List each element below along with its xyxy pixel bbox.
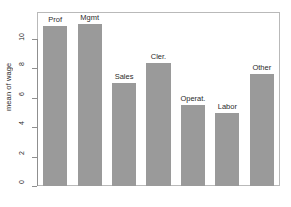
y-axis-tick — [32, 98, 37, 99]
bar-label: Operat. — [172, 95, 214, 103]
y-axis-line — [37, 39, 38, 186]
y-axis-tick — [32, 127, 37, 128]
bar — [112, 83, 136, 186]
bar — [215, 113, 239, 186]
y-axis-title: mean of wage — [4, 0, 13, 174]
y-axis-tick — [32, 39, 37, 40]
y-axis-tick — [32, 68, 37, 69]
bar-label: Mgmt — [68, 14, 110, 22]
bar — [78, 24, 102, 186]
y-axis-tick-label: 10 — [18, 33, 29, 41]
y-axis-tick-label: 6 — [18, 92, 29, 96]
y-axis-tick-label: 8 — [18, 62, 29, 66]
y-axis-tick-label: 4 — [18, 121, 29, 125]
bar-label: Cler. — [137, 53, 179, 61]
bar — [250, 74, 274, 186]
bar-label: Sales — [103, 73, 145, 81]
y-axis-tick — [32, 157, 37, 158]
y-axis-tick-label: 0 — [18, 180, 29, 184]
bar-label: Other — [241, 64, 283, 72]
bar — [181, 105, 205, 186]
y-axis-tick — [32, 186, 37, 187]
y-axis-tick-label: 2 — [18, 151, 29, 155]
bar — [146, 63, 170, 186]
bar — [43, 26, 67, 186]
bar-label: Labor — [206, 103, 248, 111]
bar-chart-figure: mean of wage 0246810 ProfMgmtSalesCler.O… — [0, 0, 291, 207]
